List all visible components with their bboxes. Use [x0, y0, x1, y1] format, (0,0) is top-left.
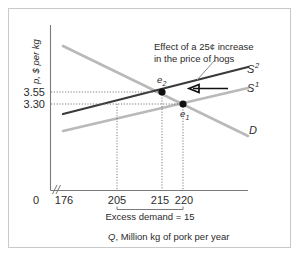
- curve-label-s2-base: S: [247, 63, 255, 75]
- equilibrium-label-e1-subscript: 1: [186, 114, 190, 121]
- supply-curve-s1: [63, 88, 248, 131]
- curve-label-s1-superscript: 1: [255, 80, 259, 89]
- shift-arrow: [189, 85, 228, 93]
- supply-demand-chart: p, $ per kg 3.55 3.30 0 176 205 215 220 …: [0, 0, 306, 263]
- curve-label-s1-base: S: [247, 82, 255, 94]
- equilibrium-label-e1-base: e: [180, 108, 185, 119]
- annotation-line-1: Effect of a 25¢ increase: [154, 41, 254, 52]
- x-tick-label-215: 215: [151, 194, 169, 206]
- x-tick-label-205: 205: [108, 194, 126, 206]
- equilibrium-label-e2-base: e: [157, 74, 162, 85]
- equilibrium-label-e1: e 1: [180, 108, 190, 121]
- x-axis-label-text: , Million kg of pork per year: [115, 231, 229, 242]
- y-tick-label-330: 3.30: [24, 98, 45, 110]
- equilibrium-point-e1: [179, 100, 186, 107]
- curve-label-s2-superscript: 2: [254, 61, 260, 70]
- excess-demand-label: Excess demand = 15: [106, 211, 195, 222]
- curve-label-d: D: [249, 124, 257, 136]
- axis-break-icon: [53, 185, 61, 194]
- curve-label-s1: S 1: [247, 80, 259, 94]
- x-tick-label-220: 220: [175, 194, 193, 206]
- origin-label: 0: [33, 194, 39, 206]
- x-tick-label-176: 176: [55, 194, 73, 206]
- x-axis-label: Q, Million kg of pork per year: [108, 231, 229, 242]
- y-axis-label: p, $ per kg: [30, 38, 41, 85]
- equilibrium-label-e2-subscript: 2: [162, 80, 167, 87]
- supply-curve-s2: [63, 67, 248, 114]
- excess-demand-bracket: [117, 207, 183, 210]
- equilibrium-label-e2: e 2: [157, 74, 167, 87]
- curve-label-s2: S 2: [247, 61, 260, 75]
- equilibrium-point-e2: [158, 88, 165, 95]
- annotation-line-2: in the price of hogs: [154, 53, 235, 64]
- y-tick-label-355: 3.55: [24, 86, 45, 98]
